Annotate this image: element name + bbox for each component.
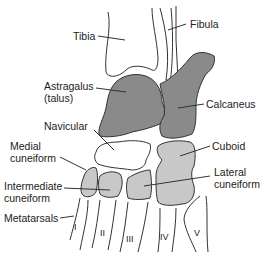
label-tibia: Tibia <box>73 30 95 42</box>
label-navicular: Navicular <box>44 120 88 132</box>
cuboid-bone <box>156 141 195 206</box>
tibia-bone <box>106 8 158 76</box>
navicular-bone <box>95 141 151 170</box>
fibula-bone <box>160 6 178 82</box>
label-medial-cuneiform-line1: Medial <box>10 140 56 152</box>
talus-bone <box>99 75 165 137</box>
label-lateral-cuneiform-line1: Lateral <box>214 166 260 178</box>
numeral-metatarsal-4: IV <box>160 232 169 242</box>
label-astragalus: Astragalus (talus) <box>44 80 94 104</box>
metatarsal-4 <box>158 208 176 252</box>
lateral-cuneiform-bone <box>127 170 152 200</box>
numeral-metatarsal-3: III <box>126 234 134 244</box>
label-lateral-cuneiform: Lateral cuneiform <box>214 166 260 190</box>
numeral-metatarsal-2: II <box>100 228 105 238</box>
label-intermediate-cuneiform-line1: Intermediate <box>4 180 62 192</box>
label-metatarsals: Metatarsals <box>4 212 58 224</box>
leader-metatarsals <box>60 216 74 218</box>
label-lateral-cuneiform-line2: cuneiform <box>214 178 260 190</box>
label-medial-cuneiform: Medial cuneiform <box>10 140 56 164</box>
numeral-metatarsal-5: V <box>194 228 200 238</box>
intermediate-cuneiform-bone <box>99 172 123 197</box>
label-fibula: Fibula <box>190 18 219 30</box>
medial-cuneiform-bone <box>81 167 98 196</box>
label-astragalus-line1: Astragalus <box>44 80 94 92</box>
metatarsal-2 <box>92 200 116 250</box>
metatarsal-5 <box>184 196 208 252</box>
metatarsal-3 <box>120 202 148 252</box>
metatarsal-1 <box>70 198 88 250</box>
label-medial-cuneiform-line2: cuneiform <box>10 152 56 164</box>
label-intermediate-cuneiform-line2: cuneiform <box>4 192 62 204</box>
numeral-metatarsal-1: I <box>74 222 77 232</box>
label-intermediate-cuneiform: Intermediate cuneiform <box>4 180 62 204</box>
label-cuboid: Cuboid <box>212 140 245 152</box>
label-calcaneus: Calcaneus <box>206 98 256 110</box>
leader-medial-cuneiform <box>60 157 86 170</box>
label-astragalus-line2: (talus) <box>44 92 94 104</box>
